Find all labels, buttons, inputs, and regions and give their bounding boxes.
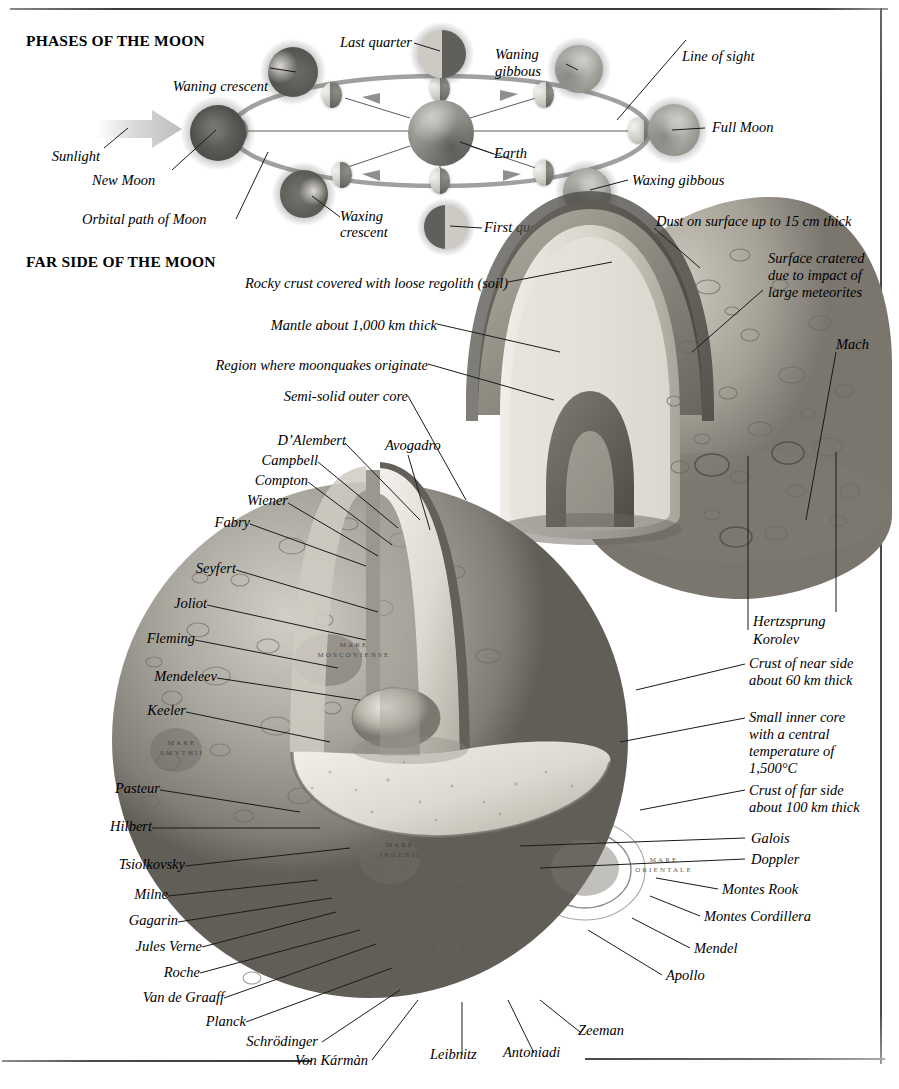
crater-label-gagarin: Gagarin	[48, 912, 178, 928]
label-far-crust-line2: about 100 km thick	[749, 799, 860, 815]
crater-label-mendeleev: Mendeleev	[41, 668, 217, 684]
crater-label-zeeman: Zeeman	[578, 1022, 624, 1038]
crater-label-montes-cordillera: Montes Cordillera	[704, 908, 811, 924]
label-surface-cratered-line3: large meteorites	[768, 284, 862, 300]
crater-label-milne: Milne	[48, 886, 168, 902]
crater-label-mendel: Mendel	[694, 940, 737, 956]
crater-label-planck: Planck	[120, 1013, 246, 1029]
label-far-crust-line1: Crust of far side	[749, 782, 844, 798]
label-outer-core: Semi-solid outer core	[170, 388, 408, 404]
crater-label-campbell: Campbell	[166, 452, 318, 468]
crater-label-dalembert: D’Alembert	[194, 432, 346, 448]
label-mantle: Mantle about 1,000 km thick	[150, 317, 437, 333]
crater-label-van-de-graaff: Van de Graaff	[62, 989, 224, 1005]
crater-label-schrodinger: Schrödinger	[150, 1033, 318, 1049]
crater-label-apollo: Apollo	[666, 967, 705, 983]
label-surface-cratered-line2: due to impact of	[768, 267, 862, 283]
crater-label-keeler: Keeler	[34, 702, 186, 718]
crater-label-von-karman: Von Kármàn	[190, 1052, 368, 1068]
crater-label-hertzsprung: Hertzsprung	[753, 613, 826, 629]
crater-label-tsiolkovsky: Tsiolkovsky	[18, 856, 185, 872]
crater-label-korolev: Korolev	[753, 631, 799, 647]
crater-label-leibnitz: Leibnitz	[430, 1046, 477, 1062]
crater-label-doppler: Doppler	[751, 851, 799, 867]
label-moonquakes: Region where moonquakes originate	[106, 357, 428, 373]
crater-label-pasteur: Pasteur	[8, 780, 160, 796]
label-near-crust-line1: Crust of near side	[749, 655, 853, 671]
label-dust-on-surface: Dust on surface up to 15 cm thick	[656, 213, 851, 229]
label-surface-cratered-line1: Surface cratered	[768, 250, 865, 266]
crater-label-roche: Roche	[90, 964, 200, 980]
crater-label-avogadro: Avogadro	[385, 437, 441, 453]
crater-label-compton: Compton	[156, 472, 308, 488]
crater-label-galois: Galois	[751, 830, 790, 846]
crater-label-wiener: Wiener	[136, 492, 288, 508]
label-inner-core-line1: Small inner core	[749, 709, 845, 725]
crater-label-jules-verne: Jules Verne	[56, 938, 202, 954]
crater-label-montes-rook: Montes Rook	[722, 881, 798, 897]
crater-label-hilbert: Hilbert	[8, 818, 152, 834]
crater-label-fabry: Fabry	[98, 514, 250, 530]
label-rocky-crust: Rocky crust covered with loose regolith …	[130, 275, 508, 291]
moon-diagram-page: PHASES OF THE MOON	[0, 0, 899, 1089]
crater-label-antoniadi: Antoniadi	[503, 1044, 560, 1060]
label-inner-core-line4: 1,500°C	[749, 760, 797, 776]
label-inner-core-line2: with a central	[749, 726, 830, 742]
crater-label-mach: Mach	[836, 336, 869, 352]
crater-label-joliot: Joliot	[55, 595, 207, 611]
label-near-crust-line2: about 60 km thick	[749, 672, 853, 688]
crater-label-seyfert: Seyfert	[84, 560, 236, 576]
label-inner-core-line3: temperature of	[749, 743, 834, 759]
crater-label-fleming: Fleming	[43, 630, 195, 646]
